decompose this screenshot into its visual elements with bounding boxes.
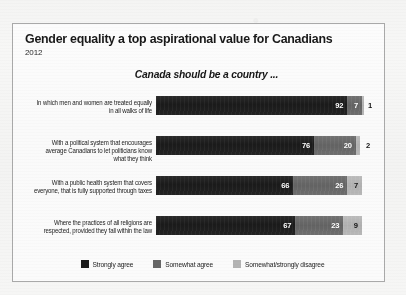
bar-value-disagree: 1: [368, 96, 372, 115]
legend-label: Strongly agree: [93, 261, 134, 268]
legend-item-disagree: Somewhat/strongly disagree: [233, 260, 324, 268]
table-row: With a public health system that covers …: [13, 174, 384, 214]
row-label: With a public health system that covers …: [34, 179, 152, 195]
chart-legend: Strongly agree Somewhat agree Somewhat/s…: [17, 260, 388, 268]
bar-value-strongly-agree: 76: [302, 141, 314, 150]
table-row: With a political system that encourages …: [13, 134, 384, 174]
row-label: Where the practices of all religions are…: [34, 219, 152, 235]
row-label: With a political system that encourages …: [34, 139, 152, 164]
legend-label: Somewhat/strongly disagree: [245, 261, 324, 268]
bar-segment-somewhat-agree: 20: [314, 136, 356, 155]
bar-value-disagree: 9: [354, 221, 362, 230]
bar-segment-strongly-agree: 76: [156, 136, 314, 155]
bar-segment-somewhat-agree: 26: [293, 176, 347, 195]
bar-segment-strongly-agree: 67: [156, 216, 295, 235]
legend-swatch-icon: [81, 260, 89, 268]
legend-item-strongly-agree: Strongly agree: [81, 260, 134, 268]
row-label: In which men and women are treated equal…: [34, 99, 152, 115]
figure-card: Gender equality a top aspirational value…: [12, 23, 385, 282]
legend-swatch-icon: [233, 260, 241, 268]
stacked-bar: 66 26 7: [156, 176, 364, 195]
page-title: Gender equality a top aspirational value…: [25, 32, 332, 46]
bar-value-somewhat-agree: 7: [354, 101, 362, 110]
bar-value-strongly-agree: 92: [335, 101, 347, 110]
legend-swatch-icon: [153, 260, 161, 268]
stacked-bar: 67 23 9: [156, 216, 364, 235]
stacked-bar: 92 7: [156, 96, 364, 115]
bar-segment-disagree: [356, 136, 360, 155]
figure-year: 2012: [25, 48, 42, 57]
bar-value-strongly-agree: 66: [281, 181, 293, 190]
legend-item-somewhat-agree: Somewhat agree: [153, 260, 213, 268]
bar-segment-somewhat-agree: 23: [295, 216, 343, 235]
figure-subtitle: Canada should be a country ...: [21, 69, 392, 80]
scanned-page-background: Gender equality a top aspirational value…: [0, 0, 406, 295]
bar-value-somewhat-agree: 23: [331, 221, 343, 230]
bar-segment-strongly-agree: 66: [156, 176, 293, 195]
bar-value-somewhat-agree: 26: [335, 181, 347, 190]
bar-segment-disagree: [362, 96, 364, 115]
bar-segment-disagree: 7: [347, 176, 362, 195]
bar-rows: In which men and women are treated equal…: [13, 94, 384, 254]
bar-segment-disagree: 9: [343, 216, 362, 235]
stacked-bar: 76 20: [156, 136, 364, 155]
bar-value-disagree: 2: [366, 136, 370, 155]
bar-segment-strongly-agree: 92: [156, 96, 347, 115]
bar-value-strongly-agree: 67: [283, 221, 295, 230]
table-row: In which men and women are treated equal…: [13, 94, 384, 134]
bar-value-somewhat-agree: 20: [344, 141, 356, 150]
bar-value-disagree: 7: [354, 181, 362, 190]
legend-label: Somewhat agree: [165, 261, 213, 268]
bar-segment-somewhat-agree: 7: [347, 96, 362, 115]
table-row: Where the practices of all religions are…: [13, 214, 384, 254]
